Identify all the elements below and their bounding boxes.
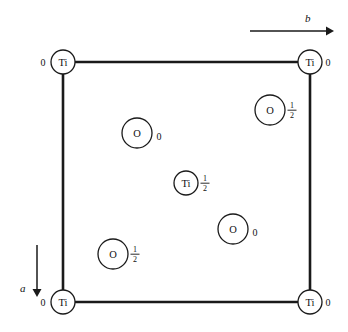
atom-ti-top-right[interactable]: Ti 0 [298,50,331,74]
atom-element-label: Ti [182,178,191,189]
atom-element-label: Ti [59,57,68,68]
atom-height-label: 0 [253,227,258,238]
atom-o-lower-right[interactable]: O 0 [218,214,258,244]
atom-element-label: Ti [59,297,68,308]
axis-a-label: a [20,282,26,294]
fraction-denominator: 2 [203,184,207,193]
fraction-denominator: 2 [133,255,137,264]
atom-ti-center[interactable]: Ti 1 2 [174,171,210,195]
atom-height-fraction: 1 2 [288,101,297,120]
atom-height-fraction: 1 2 [131,245,140,264]
axis-a: a [20,245,42,297]
fraction-denominator: 2 [290,111,294,120]
fraction-numerator: 1 [203,174,207,183]
atom-element-label: O [109,249,117,260]
atom-ti-bottom-left[interactable]: Ti 0 [41,290,76,314]
axis-b-label: b [305,12,311,24]
fraction-numerator: 1 [133,245,137,254]
axis-b-arrowhead [326,27,334,36]
atom-element-label: O [133,128,141,139]
crystal-structure-diagram: b a Ti 0 Ti 0 Ti 0 Ti [0,0,348,332]
axis-a-arrowhead [33,289,42,297]
atom-height-label: 0 [326,297,331,308]
atom-o-lower-left[interactable]: O 1 2 [98,239,140,269]
atom-element-label: Ti [306,297,315,308]
axis-b: b [250,12,334,36]
figure-canvas: b a Ti 0 Ti 0 Ti 0 Ti [0,0,348,332]
atom-height-fraction: 1 2 [201,174,210,193]
atom-height-label: 0 [326,57,331,68]
atom-element-label: Ti [306,57,315,68]
atom-height-label: 0 [157,131,162,142]
atom-height-label: 0 [41,297,46,308]
fraction-numerator: 1 [290,101,294,110]
atom-o-upper-right[interactable]: O 1 2 [255,95,297,125]
atom-element-label: O [266,105,274,116]
atom-ti-bottom-right[interactable]: Ti 0 [298,290,331,314]
atom-element-label: O [229,224,237,235]
atom-o-upper-left[interactable]: O 0 [122,118,162,148]
atom-ti-top-left[interactable]: Ti 0 [41,50,76,74]
atom-height-label: 0 [41,57,46,68]
